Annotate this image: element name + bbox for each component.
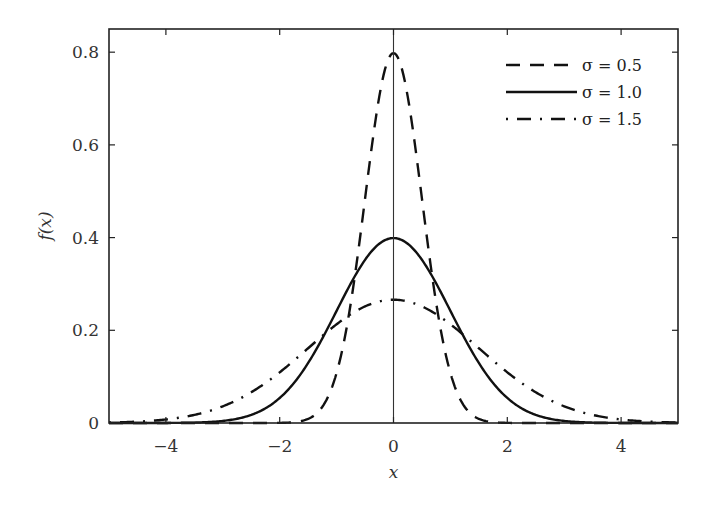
y-tick-label: 0.4 xyxy=(72,228,99,248)
y-axis-label: f(x) xyxy=(35,211,55,242)
x-axis-label: x xyxy=(389,462,399,482)
legend-label-0: σ = 0.5 xyxy=(582,56,642,75)
x-tick-label: 0 xyxy=(388,436,399,456)
y-tick-label: 0.6 xyxy=(72,135,99,155)
legend: σ = 0.5σ = 1.0σ = 1.5 xyxy=(506,56,642,129)
x-tick-label: 2 xyxy=(502,436,513,456)
y-tick-label: 0.8 xyxy=(72,42,99,62)
x-tick-label: 4 xyxy=(616,436,627,456)
y-tick-label: 0.2 xyxy=(72,320,99,340)
normal-distribution-chart: −4−2024 00.20.40.60.8 x f(x) σ = 0.5σ = … xyxy=(0,0,713,512)
legend-label-2: σ = 1.5 xyxy=(582,110,642,129)
y-tick-label: 0 xyxy=(88,413,99,433)
x-tick-label: −4 xyxy=(153,436,178,456)
legend-label-1: σ = 1.0 xyxy=(582,83,642,102)
x-tick-label: −2 xyxy=(267,436,292,456)
